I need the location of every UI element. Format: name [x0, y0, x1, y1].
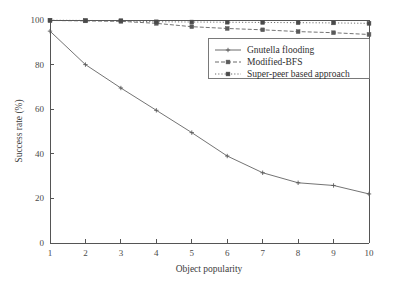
x-tick-label: 3 — [119, 248, 124, 258]
x-axis-ticks: 12345678910 — [48, 239, 374, 258]
data-point-marker — [154, 20, 158, 24]
x-tick-label: 9 — [331, 248, 336, 258]
data-point-marker — [296, 30, 300, 34]
data-point-marker — [296, 21, 300, 25]
x-tick-label: 2 — [83, 248, 88, 258]
legend-label: Gnutella flooding — [247, 45, 315, 55]
data-point-marker — [226, 72, 230, 76]
data-point-marker — [225, 20, 229, 24]
data-point-marker — [261, 21, 265, 25]
data-point-marker — [261, 28, 265, 32]
data-point-marker — [367, 21, 371, 25]
y-axis-title: Success rate (%) — [14, 99, 25, 162]
data-point-marker — [332, 21, 336, 25]
x-tick-label: 7 — [260, 248, 265, 258]
series-path — [50, 20, 369, 23]
data-point-marker — [190, 20, 194, 24]
data-point-marker — [84, 19, 88, 23]
legend: Gnutella floodingModified-BFSSuper-peer … — [209, 39, 370, 80]
chart-figure: 020406080100 12345678910 Object populari… — [0, 0, 397, 288]
y-tick-label: 80 — [35, 60, 45, 70]
series-modified-bfs — [48, 19, 371, 37]
y-tick-label: 20 — [35, 193, 45, 203]
y-tick-label: 0 — [40, 238, 45, 248]
legend-label: Modified-BFS — [247, 57, 302, 67]
line-chart: 020406080100 12345678910 Object populari… — [0, 0, 397, 288]
x-tick-label: 4 — [154, 248, 159, 258]
y-tick-label: 40 — [35, 149, 45, 159]
y-tick-label: 100 — [31, 15, 45, 25]
x-tick-label: 6 — [225, 248, 230, 258]
data-point-marker — [225, 27, 229, 31]
x-tick-label: 1 — [48, 248, 53, 258]
data-point-marker — [119, 19, 123, 23]
legend-label: Super-peer based approach — [247, 69, 350, 79]
series-path — [50, 20, 369, 34]
x-tick-label: 5 — [190, 248, 195, 258]
y-tick-label: 60 — [35, 104, 45, 114]
data-point-marker — [332, 31, 336, 35]
data-point-marker — [190, 25, 194, 29]
x-tick-label: 8 — [296, 248, 301, 258]
data-point-marker — [48, 18, 52, 22]
data-point-marker — [367, 33, 371, 37]
data-point-marker — [226, 60, 230, 64]
x-tick-label: 10 — [365, 248, 375, 258]
series-super-peer-based-approach — [48, 18, 371, 25]
x-axis-title: Object popularity — [176, 264, 243, 274]
